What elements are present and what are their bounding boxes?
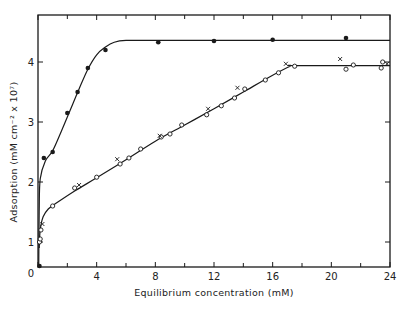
plot-frame <box>38 15 390 267</box>
open-circle-marker <box>127 156 131 160</box>
fit-curves <box>39 40 390 266</box>
filled-circle-marker <box>270 38 275 43</box>
open-circle-marker <box>95 175 99 179</box>
open-circle-marker <box>118 162 122 166</box>
x-axis-label: Equilibrium concentration (mM) <box>134 287 294 298</box>
filled-circle-marker <box>103 48 108 53</box>
filled-circle-marker <box>212 39 217 44</box>
cross-marker <box>235 86 239 90</box>
axes-box <box>38 15 390 267</box>
cross-marker <box>284 62 288 66</box>
open-circle-marker <box>139 147 143 151</box>
open-circle-marker <box>293 64 297 68</box>
open-circle-marker <box>205 113 209 117</box>
filled-circle-marker <box>344 36 349 41</box>
open-circle-marker <box>344 67 348 71</box>
open-circle-marker <box>351 63 355 67</box>
open-circle-marker <box>263 78 267 82</box>
open-circle-marker <box>379 66 383 70</box>
filled-circle-marker <box>50 150 55 155</box>
origin-label: 0 <box>28 268 34 279</box>
x-tick-label: 16 <box>266 271 279 282</box>
x-tick-label: 4 <box>93 271 99 282</box>
cross-marker <box>115 157 119 161</box>
filled-circle-marker <box>156 40 161 45</box>
y-tick-label: 1 <box>28 237 34 248</box>
x-tick-label: 20 <box>325 271 338 282</box>
open-circle-marker <box>180 123 184 127</box>
filled-circle-marker <box>42 156 47 161</box>
x-tick-label: 24 <box>384 271 397 282</box>
cross-marker <box>206 107 210 111</box>
open-circle-marker <box>381 60 385 64</box>
filled-circle-marker <box>37 264 42 269</box>
open-circle-marker <box>232 96 236 100</box>
cross-marker <box>77 183 81 187</box>
open-circle-marker <box>168 132 172 136</box>
open-circle-marker <box>38 237 42 241</box>
open-circle-marker <box>243 87 247 91</box>
filled-circle-marker <box>75 90 80 95</box>
x-tick-label: 8 <box>152 271 158 282</box>
open-circle-marker <box>51 204 55 208</box>
x-tick-label: 12 <box>208 271 221 282</box>
fit-curve <box>39 65 390 248</box>
cross-marker <box>338 57 342 61</box>
filled-circle-marker <box>65 111 70 116</box>
y-axis-ticks: 1234 <box>28 57 390 248</box>
open-circle-marker <box>219 104 223 108</box>
y-tick-label: 4 <box>28 57 34 68</box>
y-tick-label: 3 <box>28 117 34 128</box>
open-circle-marker <box>73 186 77 190</box>
open-circle-marker <box>276 71 280 75</box>
y-tick-label: 2 <box>28 177 34 188</box>
adsorption-chart: 4812162024 1234 Equilibrium concentratio… <box>0 0 413 311</box>
filled-circle-marker <box>86 66 91 71</box>
fit-curve <box>39 40 390 266</box>
open-circle-marker <box>39 228 43 232</box>
y-axis-label: Adsorption (mM cm⁻² x 10⁷) <box>8 82 19 223</box>
x-axis-ticks: 4812162024 <box>38 15 396 282</box>
data-points <box>37 36 389 269</box>
